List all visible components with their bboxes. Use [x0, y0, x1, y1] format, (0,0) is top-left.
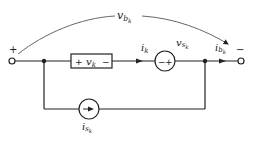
bottom-branch	[44, 61, 205, 109]
branch-voltage-subsubscript: k	[128, 17, 132, 24]
voltage-source-subsubscript: k	[185, 44, 189, 50]
right-terminal	[238, 58, 244, 64]
element-voltage-subscript: k	[92, 61, 96, 69]
branch-voltage-arc	[18, 16, 115, 54]
svg-text:isk: isk	[82, 121, 93, 134]
branch-voltage-arc-right	[142, 16, 228, 44]
svg-text:ibk: ibk	[215, 42, 227, 55]
element-current-subscript: k	[144, 47, 148, 55]
element-box: + vk −	[71, 54, 112, 69]
svg-text:vsk: vsk	[176, 37, 189, 50]
svg-text:ik: ik	[141, 42, 148, 55]
svg-text:vbk: vbk	[117, 9, 132, 24]
branch-current-arrow-icon	[219, 59, 226, 64]
voltage-source-plus: +	[165, 57, 173, 67]
element-plus-sign: +	[75, 57, 83, 67]
current-source-subsubscript: k	[89, 128, 93, 134]
element-current-arrow-icon	[136, 59, 143, 64]
element-minus-sign: −	[102, 57, 110, 67]
minus-terminal-sign: −	[236, 44, 244, 55]
branch-current-subsubscript: k	[223, 49, 227, 55]
plus-terminal-sign: +	[9, 44, 17, 55]
left-terminal	[9, 58, 15, 64]
voltage-source: − +	[155, 51, 175, 71]
circuit-diagram: + − + vk − ik − + vsk ibk	[0, 0, 254, 141]
current-source	[79, 99, 99, 119]
